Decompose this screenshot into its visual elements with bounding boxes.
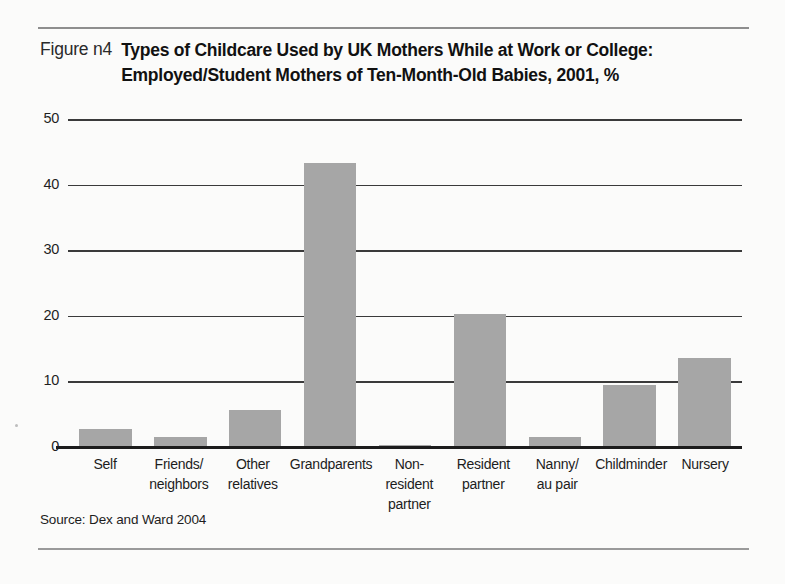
source-note: Source: Dex and Ward 2004 xyxy=(40,512,206,527)
scan-speck xyxy=(15,424,18,427)
x-axis-label: Nanny/au pair xyxy=(520,455,594,515)
bar-slot xyxy=(368,119,443,447)
bar-slot xyxy=(218,119,293,447)
figure-title: Types of Childcare Used by UK Mothers Wh… xyxy=(121,38,653,88)
bar-slot xyxy=(442,119,517,447)
bar-series xyxy=(68,119,742,447)
x-axis-label-line-1: Nursery xyxy=(681,456,728,472)
bar xyxy=(454,314,506,447)
x-axis-label-line-1: Grandparents xyxy=(290,456,373,472)
bar xyxy=(603,385,655,447)
y-axis-tick-label: 20 xyxy=(43,307,59,323)
x-axis-label-line-2: relatives xyxy=(216,475,290,495)
x-axis-label-line-1: Nanny/ xyxy=(536,456,579,472)
bar-slot xyxy=(517,119,592,447)
x-axis-label-line-1: Self xyxy=(93,456,116,472)
bar-slot xyxy=(293,119,368,447)
x-axis-label-line-2: partner xyxy=(372,495,446,515)
y-axis-tick-label: 40 xyxy=(43,175,59,191)
x-axis-label-line-1: Resident xyxy=(457,456,510,472)
x-axis-label-line-1: Childminder xyxy=(595,456,667,472)
figure-title-line-2: Employed/Student Mothers of Ten-Month-Ol… xyxy=(121,63,653,88)
y-axis-tick-label: 10 xyxy=(43,372,59,388)
chart-plot-area: 01020304050 xyxy=(68,119,742,447)
x-axis-line xyxy=(56,446,742,449)
x-axis-label: Residentpartner xyxy=(446,455,520,515)
bar xyxy=(79,429,131,447)
x-axis-label-line-1: Other xyxy=(236,456,270,472)
bar-slot xyxy=(68,119,143,447)
y-axis-tick-label: 50 xyxy=(43,110,59,126)
x-axis-label: Nursery xyxy=(668,455,742,515)
figure-title-block: Figure n4 Types of Childcare Used by UK … xyxy=(40,38,745,88)
x-axis-label-line-1: Friends/ xyxy=(155,456,204,472)
x-axis-label: Childminder xyxy=(594,455,668,515)
x-axis-label: Grandparents xyxy=(290,455,373,515)
bar-slot xyxy=(667,119,742,447)
figure-number-label: Figure n4 xyxy=(40,38,121,60)
bar xyxy=(229,410,281,447)
top-divider-rule xyxy=(38,27,749,29)
x-axis-label: Non-residentpartner xyxy=(372,455,446,515)
figure-title-line-1: Types of Childcare Used by UK Mothers Wh… xyxy=(121,40,653,60)
x-axis-label-line-2: au pair xyxy=(520,475,594,495)
figure-page: Figure n4 Types of Childcare Used by UK … xyxy=(0,0,785,584)
x-axis-label: Friends/neighbors xyxy=(142,455,216,515)
x-axis-label-line-1: Non-resident xyxy=(385,456,433,492)
x-axis-labels: SelfFriends/neighborsOtherrelativesGrand… xyxy=(68,455,742,515)
y-axis-tick-label: 30 xyxy=(43,241,59,257)
x-axis-label: Otherrelatives xyxy=(216,455,290,515)
bar-slot xyxy=(143,119,218,447)
bar xyxy=(304,163,356,447)
x-axis-label: Self xyxy=(68,455,142,515)
bar xyxy=(678,358,730,447)
x-axis-label-line-2: partner xyxy=(446,475,520,495)
bar-slot xyxy=(592,119,667,447)
bottom-divider-rule xyxy=(38,548,749,550)
x-axis-label-line-2: neighbors xyxy=(142,475,216,495)
